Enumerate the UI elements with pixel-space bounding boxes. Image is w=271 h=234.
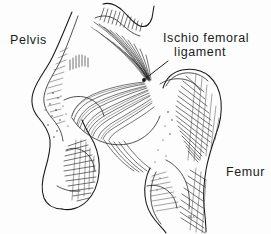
label-femur: Femur	[226, 166, 265, 180]
label-ligament-line1: Ischio femoral	[163, 31, 249, 45]
label-ischiofemoral-ligament: Ischio femoral ligament	[163, 32, 249, 59]
label-pelvis: Pelvis	[10, 34, 47, 48]
anatomy-figure: Pelvis Ischio femoral ligament Femur n.c…	[0, 0, 271, 234]
label-ligament-line2: ligament	[163, 46, 249, 60]
leader-dot-marker	[142, 78, 146, 82]
artist-signature: n.c.	[188, 213, 198, 220]
